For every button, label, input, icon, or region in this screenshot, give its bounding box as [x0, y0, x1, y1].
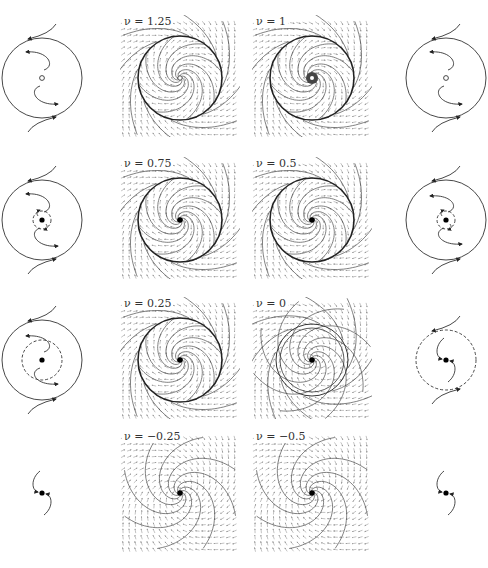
schematic-left — [0, 432, 97, 554]
schematic-left — [0, 299, 97, 421]
phase-sketch — [0, 299, 97, 421]
nu-parameter-label: ν = 1.25 — [122, 16, 173, 28]
vector-field-plot — [252, 430, 372, 552]
vector-field-plot — [120, 297, 240, 419]
vector-field-panel — [252, 430, 372, 552]
nu-parameter-label: ν = 0 — [254, 298, 288, 310]
schematic-right — [391, 299, 488, 421]
vector-field-panel — [120, 157, 240, 279]
vector-field-panel — [120, 430, 240, 552]
phase-sketch — [0, 432, 97, 554]
vector-field-plot — [120, 157, 240, 279]
nu-parameter-label: ν = 0.5 — [254, 158, 298, 170]
vector-field-plot — [120, 430, 240, 552]
nu-parameter-label: ν = 0.75 — [122, 158, 173, 170]
phase-sketch — [391, 17, 488, 139]
schematic-left — [0, 159, 97, 281]
schematic-right — [391, 159, 488, 281]
nu-parameter-label: ν = 1 — [254, 16, 288, 28]
phase-sketch — [391, 432, 488, 554]
nu-parameter-label: ν = 0.25 — [122, 298, 173, 310]
phase-sketch — [0, 159, 97, 281]
vector-field-plot — [252, 157, 372, 279]
schematic-left — [0, 17, 97, 139]
vector-field-plot — [252, 297, 372, 419]
phase-sketch — [391, 159, 488, 281]
schematic-right — [391, 17, 488, 139]
vector-field-panel — [252, 15, 372, 137]
phase-sketch — [0, 17, 97, 139]
nu-parameter-label: ν = −0.25 — [122, 431, 183, 443]
phase-sketch — [391, 299, 488, 421]
schematic-right — [391, 432, 488, 554]
nu-parameter-label: ν = −0.5 — [254, 431, 308, 443]
vector-field-panel — [120, 15, 240, 137]
vector-field-panel — [252, 157, 372, 279]
vector-field-plot — [120, 15, 240, 137]
vector-field-panel — [120, 297, 240, 419]
vector-field-plot — [252, 15, 372, 137]
vector-field-panel — [252, 297, 372, 419]
